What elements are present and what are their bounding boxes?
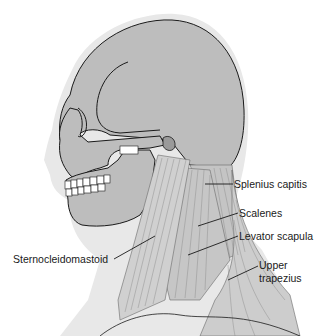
label-scalenes: Scalenes	[239, 207, 282, 219]
label-splenius-capitis: Splenius capitis	[234, 178, 307, 190]
label-sternocleidomastoid: Sternocleidomastoid	[13, 253, 108, 265]
label-upper-trapezius-line2: trapezius	[259, 272, 302, 284]
anatomy-illustration	[0, 0, 322, 336]
label-levator-scapula: Levator scapula	[239, 230, 313, 242]
condyle-gap	[120, 146, 138, 154]
label-upper-trapezius-line1: Upper	[259, 259, 288, 271]
